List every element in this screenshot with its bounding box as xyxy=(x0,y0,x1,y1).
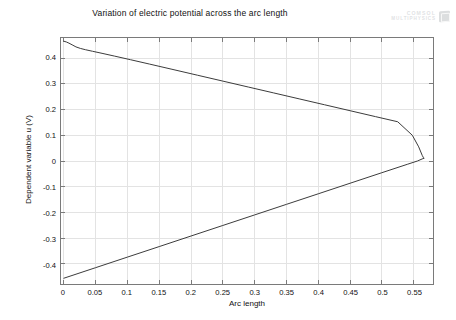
comsol-logo: COMSOL MULTIPHYSICS xyxy=(391,10,450,22)
y-tick-label: -0.3 xyxy=(22,234,56,243)
y-tick-label: -0.4 xyxy=(22,260,56,269)
y-tick-label: 0.4 xyxy=(22,53,56,62)
y-axis-title: Dependent variable u (V) xyxy=(24,85,33,235)
data-curves xyxy=(61,38,433,284)
plot-area xyxy=(60,37,434,285)
x-axis-title: Arc length xyxy=(60,299,434,308)
chart-figure: Variation of electric potential across t… xyxy=(0,0,456,320)
chart-title: Variation of electric potential across t… xyxy=(0,8,380,18)
x-tick-label: 0.55 xyxy=(395,288,435,297)
logo-line-2: MULTIPHYSICS xyxy=(391,16,436,22)
logo-wordmark: COMSOL MULTIPHYSICS xyxy=(391,10,436,22)
comsol-cube-icon xyxy=(439,10,450,22)
